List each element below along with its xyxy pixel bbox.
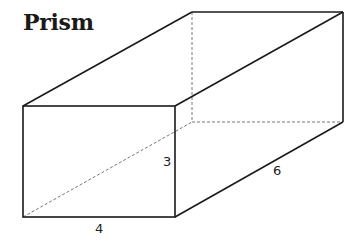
bottom-right-depth-edge (175, 122, 343, 217)
prism-figure: 3 4 6 (0, 0, 364, 252)
hidden-edges (23, 12, 343, 217)
width-label: 4 (95, 221, 103, 236)
height-label: 3 (163, 154, 171, 169)
top-right-depth-edge (175, 12, 343, 106)
depth-label: 6 (273, 163, 281, 178)
hidden-depth-edge (23, 122, 192, 217)
top-left-depth-edge (23, 12, 192, 106)
front-face (23, 106, 175, 217)
visible-edges (23, 12, 343, 217)
diagram-canvas: Prism 3 4 6 (0, 0, 364, 252)
